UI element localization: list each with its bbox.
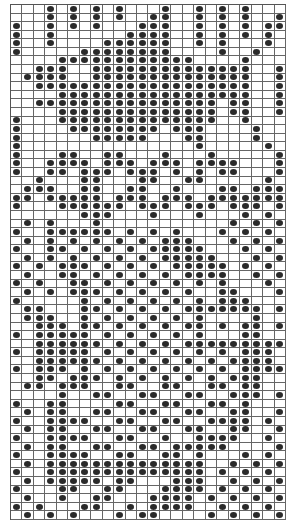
- dot-cell: [171, 494, 182, 503]
- dot-cell: [160, 417, 171, 426]
- dot-cell: [252, 254, 263, 263]
- empty-cell: [148, 271, 159, 280]
- dot-cell: [137, 125, 148, 134]
- empty-cell: [22, 125, 33, 134]
- empty-cell: [217, 314, 228, 323]
- dot-cell: [275, 220, 286, 229]
- empty-cell: [57, 177, 68, 186]
- dot-cell: [217, 31, 228, 40]
- dot-cell: [126, 117, 137, 126]
- dot-cell: [80, 185, 91, 194]
- empty-cell: [137, 211, 148, 220]
- dot-cell: [80, 348, 91, 357]
- dot-cell: [160, 151, 171, 160]
- dot-cell: [252, 340, 263, 349]
- dot-cell: [126, 134, 137, 143]
- dot-cell: [160, 14, 171, 23]
- empty-cell: [45, 503, 56, 512]
- dot-cell: [34, 74, 45, 83]
- empty-cell: [171, 39, 182, 48]
- empty-cell: [252, 426, 263, 435]
- dot-cell: [91, 288, 102, 297]
- dot-cell: [229, 74, 240, 83]
- empty-cell: [171, 14, 182, 23]
- dot-cell: [240, 56, 251, 65]
- empty-cell: [34, 254, 45, 263]
- dot-cell: [194, 314, 205, 323]
- empty-cell: [252, 151, 263, 160]
- dot-cell: [148, 228, 159, 237]
- empty-cell: [183, 39, 194, 48]
- dot-cell: [240, 245, 251, 254]
- dot-cell: [137, 185, 148, 194]
- empty-cell: [263, 477, 274, 486]
- empty-cell: [103, 194, 114, 203]
- empty-cell: [11, 288, 22, 297]
- empty-cell: [252, 228, 263, 237]
- empty-cell: [57, 5, 68, 14]
- dot-cell: [275, 194, 286, 203]
- empty-cell: [275, 357, 286, 366]
- dot-cell: [183, 323, 194, 332]
- empty-cell: [126, 357, 137, 366]
- empty-cell: [80, 65, 91, 74]
- empty-cell: [263, 383, 274, 392]
- dot-cell: [91, 443, 102, 452]
- empty-cell: [57, 503, 68, 512]
- dot-cell: [22, 194, 33, 203]
- dot-cell: [229, 305, 240, 314]
- dot-cell: [114, 202, 125, 211]
- dot-cell: [103, 426, 114, 435]
- dot-cell: [252, 460, 263, 469]
- dot-cell: [114, 74, 125, 83]
- empty-cell: [68, 391, 79, 400]
- empty-cell: [183, 314, 194, 323]
- dot-cell: [206, 357, 217, 366]
- empty-cell: [34, 451, 45, 460]
- empty-cell: [275, 262, 286, 271]
- empty-cell: [22, 503, 33, 512]
- empty-cell: [160, 220, 171, 229]
- empty-cell: [148, 220, 159, 229]
- empty-cell: [91, 280, 102, 289]
- dot-cell: [45, 245, 56, 254]
- empty-cell: [206, 314, 217, 323]
- dot-cell: [275, 511, 286, 520]
- dot-cell: [91, 91, 102, 100]
- empty-cell: [263, 391, 274, 400]
- dot-cell: [45, 314, 56, 323]
- dot-cell: [114, 151, 125, 160]
- empty-cell: [103, 254, 114, 263]
- empty-cell: [183, 185, 194, 194]
- empty-cell: [137, 245, 148, 254]
- empty-cell: [240, 434, 251, 443]
- dot-cell: [34, 503, 45, 512]
- dot-cell: [275, 14, 286, 23]
- empty-cell: [114, 142, 125, 151]
- empty-cell: [229, 245, 240, 254]
- dot-cell: [217, 5, 228, 14]
- dot-cell: [206, 151, 217, 160]
- dot-cell: [183, 271, 194, 280]
- dot-cell: [194, 99, 205, 108]
- empty-cell: [206, 365, 217, 374]
- dot-cell: [171, 365, 182, 374]
- empty-cell: [206, 451, 217, 460]
- empty-cell: [217, 374, 228, 383]
- dot-cell: [11, 159, 22, 168]
- dot-cell: [22, 305, 33, 314]
- empty-cell: [137, 5, 148, 14]
- dot-cell: [160, 31, 171, 40]
- dot-cell: [194, 14, 205, 23]
- empty-cell: [183, 14, 194, 23]
- dot-cell: [160, 340, 171, 349]
- empty-cell: [126, 511, 137, 520]
- dot-cell: [229, 194, 240, 203]
- dot-cell: [217, 434, 228, 443]
- dot-cell: [183, 65, 194, 74]
- dot-cell: [68, 451, 79, 460]
- dot-cell: [217, 14, 228, 23]
- dot-cell: [22, 460, 33, 469]
- empty-cell: [114, 31, 125, 40]
- empty-cell: [34, 117, 45, 126]
